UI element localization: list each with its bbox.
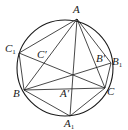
segment-C-C1: [19, 53, 105, 88]
label-C: C: [107, 86, 114, 97]
segment-A-B1: [77, 19, 111, 63]
geometry-figure: [0, 0, 128, 130]
label-B: B: [13, 88, 20, 99]
segment-B-B1: [24, 63, 111, 90]
circumcircle: [17, 20, 113, 116]
segment-A-B: [24, 19, 77, 90]
label-B1: B1: [112, 56, 122, 71]
label-A1: A1: [64, 118, 74, 130]
label-A: A: [73, 4, 80, 15]
segment-A-A1: [70, 19, 77, 116]
label-Cp: C′: [37, 49, 47, 60]
segment-A-C1: [19, 19, 77, 53]
label-C1: C1: [5, 43, 16, 58]
label-Ap: A′: [60, 88, 69, 99]
segment-C-A1: [70, 88, 105, 116]
label-Bp: B′: [96, 53, 105, 64]
segments: [19, 19, 111, 116]
